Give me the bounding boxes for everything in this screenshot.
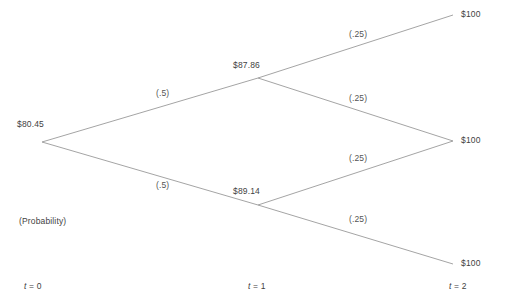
node-label-down1: $89.14 [233,186,260,196]
axis-label-t0: t = 0 [24,281,42,291]
node-label-root: $80.45 [17,119,44,129]
probability-label-up-down: (.25) [349,93,367,103]
axis-label-t2: t = 2 [449,281,467,291]
edge-root-down [42,142,258,205]
binomial-tree-diagram: $80.45 $87.86 $89.14 $100 $100 $100 (.5)… [0,0,508,308]
probability-caption: (Probability) [19,216,66,226]
axis-t-value-0: = 0 [27,281,42,291]
probability-label-up-up: (.25) [349,29,367,39]
edge-up-down [258,78,453,141]
axis-t-value-2: = 2 [452,281,467,291]
edge-root-up [42,78,258,142]
node-label-down-down: $100 [461,258,481,268]
probability-label-root-down: (.5) [156,180,169,190]
node-label-up-down: $100 [461,135,481,145]
probability-label-down-up: (.25) [349,153,367,163]
axis-label-t1: t = 1 [248,281,266,291]
node-label-up-up: $100 [461,9,481,19]
tree-edges [0,0,508,308]
probability-label-root-up: (.5) [156,88,169,98]
axis-t-value-1: = 1 [251,281,266,291]
probability-label-down-down: (.25) [349,214,367,224]
edge-down-up [258,141,453,205]
node-label-up1: $87.86 [233,60,260,70]
edge-up-up [258,15,453,78]
